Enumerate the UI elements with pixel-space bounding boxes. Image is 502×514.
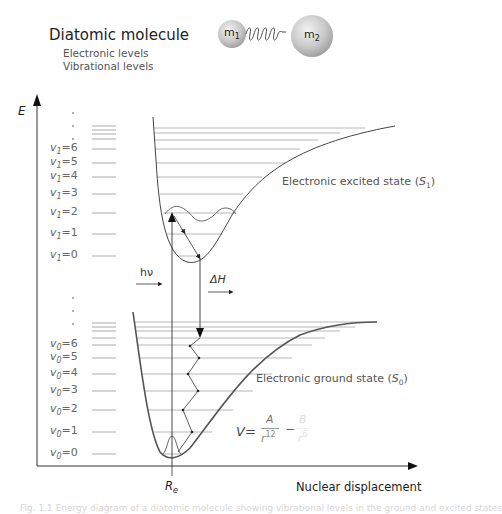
level-label: v1=6 bbox=[50, 141, 78, 156]
formula-den2-exp: 6 bbox=[303, 430, 308, 439]
mass-1-label: m1 bbox=[224, 26, 240, 41]
level-label: v0=3 bbox=[50, 383, 78, 398]
level-value: =6 bbox=[62, 337, 78, 350]
ground-state-close: ) bbox=[404, 372, 408, 385]
level-value: =4 bbox=[62, 169, 78, 182]
ground-level-ticks bbox=[92, 345, 116, 454]
mass-2-subscript: 2 bbox=[315, 34, 320, 43]
re-symbol: R bbox=[165, 479, 173, 493]
level-value: =3 bbox=[62, 383, 78, 396]
displacement-axis-label: Nuclear displacement bbox=[296, 480, 421, 494]
level-label: v0=5 bbox=[50, 350, 78, 365]
level-label: v1=5 bbox=[50, 155, 78, 170]
excited-higher-levels-indicator bbox=[72, 112, 74, 140]
displacement-axis-arrowhead bbox=[408, 462, 418, 470]
ground-higher-levels-indicator bbox=[72, 297, 74, 325]
level-value: =6 bbox=[62, 141, 78, 154]
subtitle-electronic-levels: Electronic levels bbox=[63, 47, 149, 59]
formula-fraction-bar-2 bbox=[296, 428, 310, 429]
level-label: v1=4 bbox=[50, 169, 78, 184]
ground-state-symbol: S bbox=[392, 372, 399, 385]
spring-icon bbox=[246, 28, 286, 40]
level-value: =2 bbox=[62, 205, 78, 218]
mass-1-symbol: m bbox=[224, 26, 235, 39]
re-label: Re bbox=[165, 479, 178, 495]
ground-zigzag-relaxation bbox=[178, 338, 200, 452]
level-value: =2 bbox=[62, 402, 78, 415]
mass-2-symbol: m bbox=[304, 28, 315, 41]
energy-axis-label: E bbox=[18, 104, 26, 118]
subtitle-vibrational-levels: Vibrational levels bbox=[63, 60, 154, 72]
energy-axis-arrowhead bbox=[33, 94, 41, 106]
level-value: =1 bbox=[62, 226, 78, 239]
excited-state-symbol: S bbox=[419, 175, 426, 188]
formula-num2: B bbox=[299, 413, 307, 426]
level-label: v0=0 bbox=[50, 446, 78, 461]
absorption-label: hν bbox=[140, 266, 153, 279]
formula-num1: A bbox=[266, 413, 274, 426]
level-label: v1=3 bbox=[50, 186, 78, 201]
relaxation-label: ΔH bbox=[210, 273, 226, 286]
excited-state-close: ) bbox=[431, 175, 435, 188]
level-value: =4 bbox=[62, 366, 78, 379]
ground-short-level-lines bbox=[92, 323, 116, 338]
excited-relaxation-arrow bbox=[174, 216, 199, 257]
ground-state-label: Electronic ground state (S0) bbox=[256, 372, 408, 387]
re-subscript: e bbox=[173, 486, 178, 495]
level-label: v1=0 bbox=[50, 248, 78, 263]
level-value: =0 bbox=[62, 248, 78, 261]
level-label: v0=2 bbox=[50, 402, 78, 417]
level-value: =5 bbox=[62, 350, 78, 363]
mass-1-subscript: 1 bbox=[235, 32, 240, 41]
excited-state-text: Electronic excited state ( bbox=[282, 175, 419, 188]
diagram-title: Diatomic molecule bbox=[49, 26, 189, 44]
level-value: =5 bbox=[62, 155, 78, 168]
level-label: v1=2 bbox=[50, 205, 78, 220]
excited-relaxation-mid-marker bbox=[182, 229, 184, 232]
excited-level-ticks bbox=[92, 149, 116, 256]
level-value: =0 bbox=[62, 446, 78, 459]
level-value: =3 bbox=[62, 186, 78, 199]
level-label: v0=4 bbox=[50, 366, 78, 381]
excited-state-label: Electronic excited state (S1) bbox=[282, 175, 435, 190]
mass-2-label: m2 bbox=[304, 28, 320, 43]
formula-den1: r12 bbox=[261, 430, 276, 445]
formula-fraction-bar-1 bbox=[261, 428, 279, 429]
relaxation-arrowhead bbox=[196, 328, 204, 338]
level-label: v0=1 bbox=[50, 424, 78, 439]
excited-vibrational-lines bbox=[154, 128, 365, 256]
figure-caption: Fig. 1.1 Energy diagram of a diatomic mo… bbox=[20, 503, 502, 513]
level-label: v1=1 bbox=[50, 226, 78, 241]
formula-den2: r6 bbox=[298, 430, 308, 445]
formula-lhs: V= bbox=[236, 424, 256, 439]
excited-short-level-lines bbox=[92, 126, 116, 139]
level-value: =1 bbox=[62, 424, 78, 437]
formula-minus: − bbox=[285, 422, 295, 436]
formula-den1-exp: 12 bbox=[266, 430, 276, 439]
ground-state-text: Electronic ground state ( bbox=[256, 372, 392, 385]
